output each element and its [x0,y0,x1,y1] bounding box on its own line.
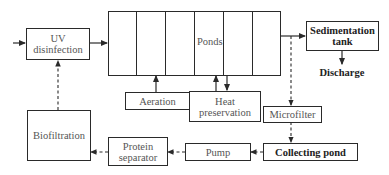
heat-label-line2: preservation [199,107,251,118]
biofiltration-label: Biofiltration [33,130,85,141]
uv-label-line1: UV [50,33,65,44]
pond-divider [194,11,195,75]
uv-disinfection-box: UV disinfection [26,28,90,60]
aeration-box: Aeration [125,92,190,110]
collecting-pond-box: Collecting pond [263,143,358,161]
sedimentation-label-line1: Sedimentation [310,25,375,36]
microfilter-box: Microfilter [263,106,322,123]
biofiltration-box: Biofiltration [27,110,91,161]
pond-divider [252,11,253,75]
protein-label-line2: separator [119,152,157,163]
uv-label-line2: disinfection [33,44,83,55]
ponds-label: Ponds [197,36,223,47]
protein-separator-box: Protein separator [108,137,168,166]
pond-divider [136,11,137,75]
sedimentation-tank-box: Sedimentation tank [306,21,379,51]
discharge-label: Discharge [314,67,370,78]
pond-divider [223,11,224,75]
pond-divider [165,11,166,75]
aeration-label: Aeration [139,96,176,107]
collecting-pond-label: Collecting pond [275,147,346,158]
pump-box: Pump [185,143,251,161]
protein-label-line1: Protein [123,141,153,152]
sedimentation-label-line2: tank [332,36,352,47]
pump-label: Pump [206,147,231,158]
heat-label-line1: Heat [215,96,235,107]
heat-preservation-box: Heat preservation [189,91,261,122]
microfilter-label: Microfilter [269,109,315,120]
